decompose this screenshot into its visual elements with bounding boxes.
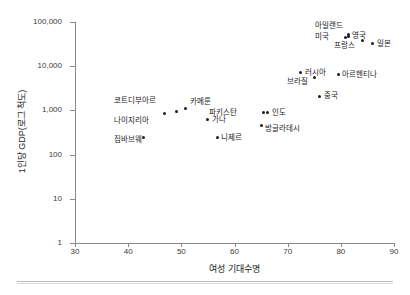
data-point-label: 파키스탄 — [209, 109, 237, 117]
data-point — [299, 71, 302, 74]
data-point-label: 니제르 — [221, 134, 242, 142]
data-point — [337, 73, 340, 76]
y-tick-mark — [70, 66, 75, 67]
data-point-label: 방글라데시 — [265, 125, 300, 133]
footer-divider-top — [17, 281, 393, 282]
data-point — [361, 39, 364, 42]
data-point-label: 인도 — [272, 109, 286, 117]
data-point-label: 일본 — [377, 40, 391, 48]
data-point — [313, 76, 316, 79]
y-tick-label: 100,000 — [0, 18, 62, 26]
y-axis-line — [75, 22, 76, 243]
x-axis-title: 여성 기대수명 — [75, 262, 394, 275]
data-point — [260, 124, 263, 127]
scatter-plot: 1101001,00010,000100,000 30405060708090 … — [0, 0, 410, 295]
data-point — [175, 110, 178, 113]
data-point — [266, 111, 269, 114]
data-point-label: 브라질 — [287, 78, 308, 86]
data-point-label: 짐바브웨 — [114, 136, 142, 144]
y-tick-mark — [70, 155, 75, 156]
x-tick-label: 30 — [60, 247, 90, 256]
x-tick-label: 80 — [326, 247, 356, 256]
data-point-label: 코트디부아르 — [114, 97, 156, 105]
y-tick-mark — [70, 22, 75, 23]
data-point — [318, 95, 321, 98]
x-tick-label: 40 — [113, 247, 143, 256]
chart-screenshot: 1101001,00010,000100,000 30405060708090 … — [0, 0, 410, 295]
y-tick-mark — [70, 199, 75, 200]
y-tick-label: 10 — [0, 195, 62, 203]
data-point-label: 아일랜드 — [315, 22, 343, 30]
data-point-label: 러시아 — [305, 69, 326, 77]
data-point — [206, 118, 209, 121]
data-point-label: 아르헨티나 — [342, 71, 377, 79]
data-point-label: 중국 — [324, 92, 338, 100]
y-tick-label: 1,000 — [0, 106, 62, 114]
data-point — [216, 136, 219, 139]
data-point-label: 프랑스 — [334, 42, 355, 50]
y-tick-mark — [70, 110, 75, 111]
footer-divider-bottom — [17, 283, 393, 284]
data-point-label: 영국 — [352, 32, 366, 40]
data-point-label: 나이지리아 — [114, 117, 149, 125]
x-tick-label: 70 — [273, 247, 303, 256]
data-point-label: 미국 — [315, 33, 329, 41]
y-tick-label: 100 — [0, 151, 62, 159]
data-point — [163, 112, 166, 115]
x-tick-label: 50 — [166, 247, 196, 256]
data-point — [184, 107, 187, 110]
y-tick-label: 10,000 — [0, 62, 62, 70]
data-point-label: 카메룬 — [190, 98, 211, 106]
y-tick-label: 1 — [0, 239, 62, 247]
x-tick-label: 60 — [220, 247, 250, 256]
data-point — [344, 36, 347, 39]
y-axis-title: 1인당 GDP(로그 척도) — [15, 62, 28, 202]
data-point — [371, 42, 374, 45]
x-tick-label: 90 — [379, 247, 409, 256]
data-point — [262, 111, 265, 114]
